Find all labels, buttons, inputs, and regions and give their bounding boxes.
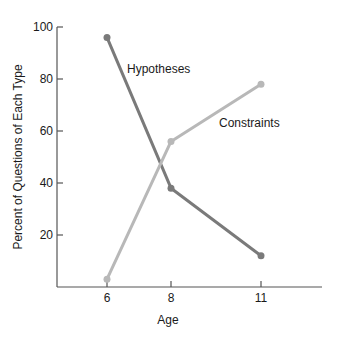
data-point [168, 138, 175, 145]
data-point [104, 276, 111, 283]
x-ticks: 6811 [104, 281, 268, 305]
data-point [258, 81, 265, 88]
x-tick-label: 8 [168, 291, 175, 305]
hypotheses-label: Hypotheses [127, 62, 190, 76]
y-tick-label: 100 [33, 20, 53, 34]
x-tick-label: 11 [255, 291, 268, 305]
data-point [168, 185, 175, 192]
y-tick-label: 60 [40, 124, 54, 138]
line-chart: 20406080100 6811 Age Percent of Question… [0, 0, 337, 341]
data-point [258, 252, 265, 259]
x-tick-label: 6 [104, 291, 111, 305]
y-tick-label: 40 [40, 176, 54, 190]
series-line [107, 84, 261, 279]
y-ticks: 20406080100 [33, 20, 63, 242]
data-point [104, 34, 111, 41]
y-axis-title: Percent of Questions of Each Type [11, 64, 25, 250]
x-axis-title: Age [157, 313, 179, 327]
y-tick-label: 20 [40, 228, 54, 242]
y-tick-label: 80 [40, 72, 54, 86]
constraints-label: Constraints [219, 116, 280, 130]
